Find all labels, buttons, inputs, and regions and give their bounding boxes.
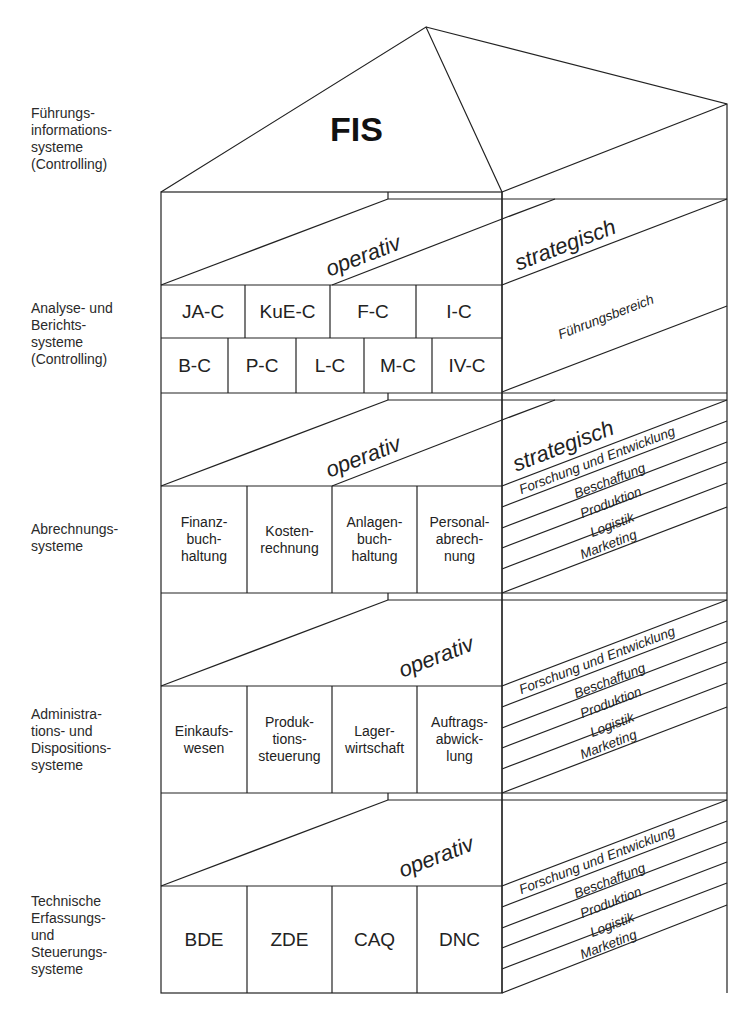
analyse-cell: L-C [296,338,364,393]
level-label-admin: Administra- tions- und Dispositions- sys… [31,706,111,774]
level-label-fis: Führungs- informations- systeme (Control… [31,105,112,173]
technisch-cell: BDE [161,886,247,993]
level-label-abrechnung: Abrechnungs- systeme [31,521,118,555]
admin-cell: Auftrags- abwick- lung [417,686,502,793]
analyse-cell: F-C [330,285,416,338]
admin-cell: Lager- wirtschaft [332,686,417,793]
admin-cell: Produk- tions- steuerung [247,686,332,793]
fis-title: FIS [330,110,383,149]
admin-cell: Einkaufs- wesen [161,686,247,793]
level-label-analyse: Analyse- und Berichts- systeme (Controll… [31,300,113,368]
abrechnung-cell: Kosten- rechnung [247,486,332,593]
analyse-cell: IV-C [432,338,502,393]
technisch-cell: CAQ [332,886,417,993]
technisch-cell: ZDE [247,886,332,993]
analyse-cell: M-C [364,338,432,393]
level-label-technisch: Technische Erfassungs- und Steuerungs- s… [31,893,107,978]
abrechnung-cell: Anlagen- buch- haltung [332,486,417,593]
technisch-cell: DNC [417,886,502,993]
analyse-cell: KuE-C [245,285,330,338]
analyse-cell: I-C [416,285,502,338]
analyse-cell: B-C [161,338,228,393]
analyse-cell: P-C [228,338,296,393]
analyse-cell: JA-C [161,285,245,338]
abrechnung-cell: Personal- abrech- nung [417,486,502,593]
abrechnung-cell: Finanz- buch- haltung [161,486,247,593]
